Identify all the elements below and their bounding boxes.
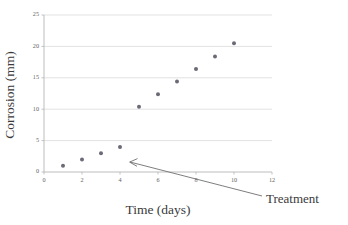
data-point <box>156 92 160 96</box>
data-point <box>232 41 236 45</box>
y-axis-title: Corrosion (mm) <box>2 51 17 138</box>
y-tick-label: 5 <box>36 136 39 143</box>
y-tick-label: 20 <box>33 42 39 49</box>
treatment-annotation-label: Treatment <box>266 191 319 206</box>
chart-canvas: 0510152025 024681012 Treatment Time (day… <box>0 0 348 225</box>
x-tick-label: 12 <box>269 176 275 183</box>
data-point <box>137 105 141 109</box>
x-axis-title: Time (days) <box>125 202 190 217</box>
y-tick-label: 10 <box>33 105 39 112</box>
x-tick-label: 10 <box>231 176 237 183</box>
data-point <box>213 54 217 58</box>
data-point <box>118 145 122 149</box>
x-tick-label: 4 <box>118 176 121 183</box>
data-point <box>61 164 65 168</box>
data-point <box>175 80 179 84</box>
data-point <box>99 151 103 155</box>
x-tick-label: 0 <box>42 176 45 183</box>
data-point <box>80 157 84 161</box>
x-tick-label: 6 <box>156 176 159 183</box>
x-tick-label: 2 <box>80 176 83 183</box>
corrosion-scatter-chart: 0510152025 024681012 Treatment Time (day… <box>0 0 348 225</box>
x-tick-labels: 024681012 <box>42 176 275 183</box>
y-tick-label: 0 <box>36 167 39 174</box>
annotation-arrow-shaft <box>130 162 262 196</box>
data-point <box>194 67 198 71</box>
y-tick-label: 25 <box>33 10 39 17</box>
y-tick-label: 15 <box>33 73 39 80</box>
gridlines <box>44 15 272 141</box>
data-points <box>61 41 236 167</box>
y-tick-labels: 0510152025 <box>33 10 39 174</box>
